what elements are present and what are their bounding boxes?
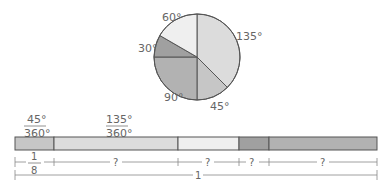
measure-unknown-3: ? xyxy=(249,157,254,168)
pie-label-90: 90° xyxy=(164,91,184,104)
pie-label-30: 30° xyxy=(138,42,158,55)
svg-text:135°: 135° xyxy=(106,113,133,126)
pie-label-60: 60° xyxy=(162,11,182,24)
fraction-label-135-360: 135° 360° xyxy=(106,113,133,140)
bar-segment-90 xyxy=(269,137,377,150)
fraction-diagram: 135° 45° 90° 30° 60° 45° 360° 135° 360° xyxy=(0,0,388,192)
measure-first-num: 1 xyxy=(31,151,37,162)
bar-segment-45 xyxy=(15,137,54,150)
total-label: 1 xyxy=(195,170,201,181)
svg-text:45°: 45° xyxy=(27,113,47,126)
bar-segment-30 xyxy=(239,137,269,150)
pie-label-45: 45° xyxy=(210,100,230,113)
bar-segment-60 xyxy=(178,137,239,150)
measure-unknown-1: ? xyxy=(113,157,118,168)
measure-unknown-4: ? xyxy=(320,157,325,168)
bar-segment-135 xyxy=(54,137,178,150)
fraction-label-45-360: 45° 360° xyxy=(24,113,51,140)
measure-unknown-2: ? xyxy=(205,157,210,168)
pie-chart xyxy=(154,14,240,100)
fraction-bar xyxy=(15,137,377,150)
pie-label-135: 135° xyxy=(236,30,263,43)
measure-first-den: 8 xyxy=(31,165,37,176)
